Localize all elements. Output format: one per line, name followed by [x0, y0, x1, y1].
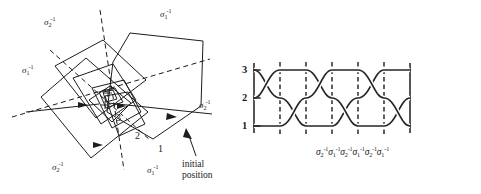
sigma-label-bottom-right: σ1-1: [147, 166, 158, 175]
braid-word-letter-6: σ1-1: [377, 147, 389, 157]
braid-axis-label-3: 3: [242, 65, 247, 76]
braid-entry-stubs: [254, 70, 260, 126]
strand-number-3: 3: [116, 113, 121, 123]
braid-panel: 3 2 1 σ2-1σ1-1σ2-1σ1-1σ2-1σ1-1: [240, 0, 481, 194]
braid-word-letter-2: σ1-1: [328, 147, 340, 157]
strand-number-1: 1: [158, 144, 163, 154]
braid-svg: [240, 0, 481, 194]
sigma-label-right: σ2-1: [199, 101, 210, 110]
figure-root: σ2-1 σ1-1 σ1-1 σ2-1 σ2-1 σ1-1 3 2 1 init…: [0, 0, 481, 194]
initial-position-callout: [183, 128, 196, 156]
sigma-label-top-left: σ2-1: [44, 18, 55, 27]
initial-position-line2: position: [182, 170, 213, 181]
polygon-outer-2: [55, 40, 146, 118]
braid-word-letter-4: σ1-1: [353, 147, 365, 157]
strand-number-2: 2: [135, 131, 140, 141]
arrowhead-callout: [183, 128, 192, 139]
sigma-label-bottom-left: σ2-1: [52, 163, 63, 172]
initial-position-annotation: initial position: [182, 159, 213, 180]
braid-word: σ2-1σ1-1σ2-1σ1-1σ2-1σ1-1: [316, 147, 389, 157]
arrowhead-left-ray: [78, 102, 88, 108]
arrowhead-bottom: [93, 142, 103, 148]
sigma-label-left: σ1-1: [22, 66, 33, 75]
initial-position-line1: initial: [182, 159, 213, 170]
dashed-axis-horizontal: [12, 59, 210, 117]
braid-word-letter-3: σ2-1: [340, 147, 352, 157]
arrowhead-right-ray: [166, 113, 177, 120]
sigma-label-top-right: σ1-1: [160, 10, 171, 19]
braid-axis-label-2: 2: [242, 93, 247, 104]
braid-axis-label-1: 1: [242, 121, 247, 132]
spiral-polygon-panel: σ2-1 σ1-1 σ1-1 σ2-1 σ2-1 σ1-1 3 2 1 init…: [0, 0, 240, 194]
braid-word-letter-1: σ2-1: [316, 147, 328, 157]
braid-word-letter-5: σ2-1: [365, 147, 377, 157]
